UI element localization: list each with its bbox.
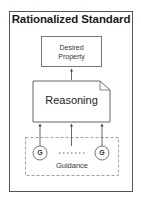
desired-property-line2: Property [58,52,84,61]
guidance-node-left-label: G [33,146,47,160]
desired-property-box: Desired Property [41,36,102,67]
reasoning-label: Reasoning [33,93,110,107]
desired-property-line1: Desired [58,43,84,52]
guidance-label: Guidance [25,161,119,171]
guidance-node-right-label: G [95,146,109,160]
